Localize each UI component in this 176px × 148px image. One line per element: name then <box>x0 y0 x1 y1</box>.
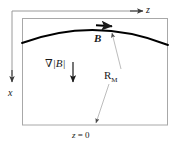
gradient-magnitude-label: ∇|B| <box>45 58 65 69</box>
magnetic-field-label: B <box>94 33 101 44</box>
field-magnitude-symbol: |B| <box>53 57 66 69</box>
magnetic-field-curvature-figure: z x B ∇|B| RM z = 0 <box>0 0 176 148</box>
radius-leader-lower <box>96 84 109 123</box>
boundary-label: z = 0 <box>72 131 90 140</box>
radius-of-curvature-label: RM <box>104 70 118 84</box>
field-direction-arrow <box>96 25 112 26</box>
boundary-value: = 0 <box>76 130 90 140</box>
radius-subscript: M <box>111 76 117 84</box>
axis-corner-path <box>12 11 138 76</box>
figure-canvas <box>0 0 176 148</box>
coordinate-axes <box>12 11 143 82</box>
radius-leader-upper <box>112 33 121 69</box>
nabla-symbol: ∇ <box>45 57 53 69</box>
z-axis-label: z <box>146 5 150 15</box>
x-axis-label: x <box>8 88 12 98</box>
